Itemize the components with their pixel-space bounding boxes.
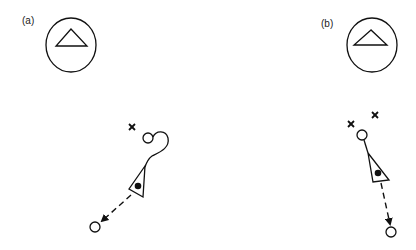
panel-a: (a) (22, 15, 168, 232)
landmark-circle-a (46, 18, 96, 72)
panel-b-label: (b) (321, 18, 333, 29)
agent-dot-icon (375, 170, 382, 177)
end-circle-b (386, 227, 396, 237)
landmark-triangle-icon (354, 30, 387, 45)
agent-dot-icon (135, 183, 142, 190)
agent-triangle-a (129, 166, 145, 197)
agent-triangle-icon (368, 153, 389, 182)
diagram-canvas: (a) (b) (0, 0, 416, 250)
start-circle-b (357, 130, 367, 140)
cross-marker-b1 (348, 121, 354, 127)
straight-path-b (364, 140, 368, 153)
agent-triangle-icon (129, 166, 145, 197)
panel-b: (b) (321, 18, 397, 237)
movement-arrow-a (102, 195, 131, 221)
agent-triangle-b (368, 153, 389, 182)
cross-marker-b2 (372, 112, 378, 118)
cross-marker-a1 (129, 124, 135, 130)
landmark-triangle-icon (56, 29, 87, 46)
landmark-circle-outline (46, 18, 96, 72)
movement-arrow-b (381, 183, 390, 224)
start-circle-a (143, 133, 153, 143)
landmark-circle-b (347, 18, 397, 72)
panel-a-label: (a) (22, 15, 34, 26)
end-circle-a (90, 222, 100, 232)
